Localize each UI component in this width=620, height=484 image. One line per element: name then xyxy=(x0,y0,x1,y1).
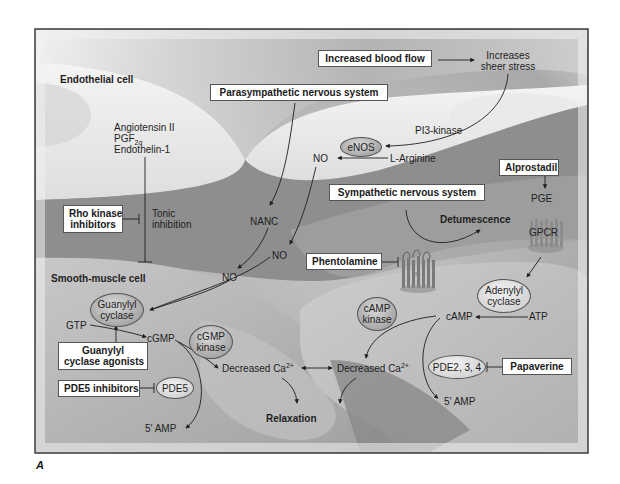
guanylyl-cyclase-agonists-box: Guanylyl cyclase agonists xyxy=(58,342,148,370)
pgf-label: PGF2α xyxy=(114,133,143,144)
gtp-label: GTP xyxy=(66,320,87,331)
papaverine-box: Papaverine xyxy=(502,358,572,375)
tonic-inhibition-label: Tonic inhibition xyxy=(152,208,191,230)
rho-kinase-line2: inhibitors xyxy=(69,219,117,230)
ca-right-superscript: 2+ xyxy=(401,362,409,369)
increases-line1: Increases xyxy=(478,50,538,61)
camp-kinase-line2: kinase xyxy=(363,314,392,325)
enos-ellipse: eNOS xyxy=(340,137,382,157)
angiotensin-label: Angiotensin II xyxy=(114,122,175,133)
increases-line2: sheer stress xyxy=(478,61,538,72)
pgf-text: PGF xyxy=(114,133,135,144)
camp-kinase-ellipse: cAMP kinase xyxy=(357,297,397,331)
gc-line2: cyclase xyxy=(100,310,133,321)
decreased-ca-left-text: Decreased Ca xyxy=(222,363,286,374)
endothelin-label: Endothelin-1 xyxy=(114,144,170,155)
increases-sheer-stress-label: Increases sheer stress xyxy=(478,50,538,72)
l-arginine-label: L-Arginine xyxy=(390,153,436,164)
ac-line2: cyclase xyxy=(487,296,520,307)
rho-kinase-inhibitors-box: Rho kinase inhibitors xyxy=(63,205,123,233)
atp-label: ATP xyxy=(529,311,548,322)
five-amp-left-label: 5′ AMP xyxy=(145,423,176,434)
gc-agonists-line1: Guanylyl xyxy=(64,345,142,356)
increased-blood-flow-box: Increased blood flow xyxy=(318,50,432,67)
decreased-ca-right-label: Decreased Ca2+ xyxy=(337,363,409,374)
figure-panel-letter: A xyxy=(36,459,44,471)
decreased-ca-left-label: Decreased Ca2+ xyxy=(222,363,294,374)
cgmp-kinase-ellipse: cGMP kinase xyxy=(189,325,233,359)
guanylyl-cyclase-ellipse: Guanylyl cyclase xyxy=(90,293,144,327)
gpcr-label: GPCR xyxy=(529,227,558,238)
adenylyl-cyclase-ellipse: Adenylyl cyclase xyxy=(477,279,531,313)
figure-canvas: Endothelial cell Smooth-muscle cell Incr… xyxy=(0,0,620,484)
diagram-graphics xyxy=(0,0,620,484)
endothelial-cell-label: Endothelial cell xyxy=(60,74,133,85)
relaxation-label: Relaxation xyxy=(266,413,317,424)
camp-label: cAMP xyxy=(446,311,473,322)
detumescence-label: Detumescence xyxy=(440,214,511,225)
pde234-ellipse: PDE2, 3, 4 xyxy=(428,355,486,379)
phentolamine-box: Phentolamine xyxy=(306,253,382,270)
no-endothelial-label: NO xyxy=(313,153,328,164)
sympathetic-box: Sympathetic nervous system xyxy=(329,184,485,201)
tonic-line2: inhibition xyxy=(152,219,191,230)
camp-kinase-line1: cAMP xyxy=(364,303,391,314)
gc-line1: Guanylyl xyxy=(98,299,137,310)
ca-left-superscript: 2+ xyxy=(286,362,294,369)
pi3-kinase-label: PI3-kinase xyxy=(415,125,462,136)
decreased-ca-right-text: Decreased Ca xyxy=(337,363,401,374)
smooth-muscle-cell-label: Smooth-muscle cell xyxy=(51,273,145,284)
ac-line1: Adenylyl xyxy=(485,285,523,296)
cgmp-label: cGMP xyxy=(147,333,175,344)
tonic-line1: Tonic xyxy=(152,208,191,219)
nanc-label: NANC xyxy=(250,216,278,227)
no-left-label: NO xyxy=(222,272,237,283)
pde5-ellipse: PDE5 xyxy=(156,377,194,399)
no-right-label: NO xyxy=(272,250,287,261)
cgmp-kinase-line2: kinase xyxy=(197,342,226,353)
gc-agonists-line2: cyclase agonists xyxy=(64,356,142,367)
pge-label: PGE xyxy=(531,193,552,204)
five-amp-right-label: 5′ AMP xyxy=(444,396,475,407)
pde5-inhibitors-box: PDE5 inhibitors xyxy=(58,380,140,397)
cgmp-kinase-line1: cGMP xyxy=(197,331,225,342)
parasympathetic-box: Parasympathetic nervous system xyxy=(210,84,388,101)
rho-kinase-line1: Rho kinase xyxy=(69,208,117,219)
alprostadil-box: Alprostadil xyxy=(499,159,559,176)
alpha1-receptor-label: α1 xyxy=(413,268,421,279)
